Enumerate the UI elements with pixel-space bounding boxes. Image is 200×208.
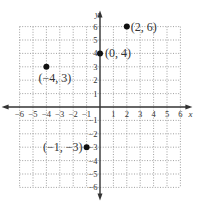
y-axis-label: y <box>94 9 99 19</box>
x-tick-label: 2 <box>125 109 129 119</box>
x-axis-arrow-left-icon <box>2 105 9 110</box>
y-tick-label: 1 <box>93 89 97 99</box>
y-tick-label: −2 <box>88 129 97 139</box>
y-tick-label: 2 <box>93 75 97 85</box>
x-tick-label: −2 <box>69 109 78 119</box>
data-point <box>84 144 90 150</box>
x-axis-label: x <box>187 109 192 119</box>
coordinate-plane-chart: xy −6−5−4−3−2−1123456−6−5−4−3−2−1123456 … <box>0 0 200 208</box>
point-label: (0, 4) <box>105 46 131 60</box>
y-tick-label: 3 <box>93 62 97 72</box>
y-tick-label: 5 <box>93 35 97 45</box>
point-label: (2, 6) <box>131 20 157 34</box>
x-tick-label: −6 <box>15 109 24 119</box>
data-point <box>43 64 49 70</box>
y-axis-arrow-down-icon <box>98 193 103 200</box>
point-label: (−1, −3) <box>43 140 83 154</box>
x-tick-label: 1 <box>111 109 115 119</box>
y-tick-label: −3 <box>88 142 97 152</box>
x-tick-label: −4 <box>42 109 52 119</box>
x-tick-label: 3 <box>138 109 142 119</box>
point-label: (−4, 3) <box>38 71 71 85</box>
y-tick-label: −1 <box>88 115 97 125</box>
data-point <box>97 50 103 56</box>
x-tick-label: 6 <box>178 109 182 119</box>
y-tick-label: −5 <box>88 169 97 179</box>
y-tick-label: −4 <box>88 156 98 166</box>
x-tick-label: −3 <box>55 109 64 119</box>
y-tick-label: −6 <box>88 182 97 192</box>
y-tick-label: 6 <box>93 22 97 32</box>
x-tick-label: 5 <box>165 109 169 119</box>
x-tick-label: 4 <box>151 109 156 119</box>
data-point <box>124 24 130 30</box>
x-tick-label: −5 <box>28 109 37 119</box>
